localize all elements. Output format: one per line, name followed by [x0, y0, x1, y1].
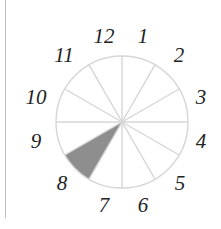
spoke-line — [122, 89, 179, 122]
clock-dial: 12 1 2 3 4 5 6 7 8 9 10 11 — [0, 0, 221, 229]
spoke-line — [122, 122, 155, 179]
label-5: 5 — [175, 171, 186, 195]
label-11: 11 — [54, 43, 73, 67]
spoke-line — [65, 89, 122, 122]
label-8: 8 — [57, 171, 68, 195]
spoke-line — [122, 65, 155, 122]
label-6: 6 — [138, 193, 149, 217]
label-12: 12 — [94, 24, 116, 48]
label-7: 7 — [99, 193, 111, 217]
label-4: 4 — [196, 129, 207, 153]
label-2: 2 — [174, 43, 185, 67]
label-9: 9 — [31, 129, 42, 153]
spoke-line — [89, 65, 122, 122]
spoke-line — [122, 122, 179, 155]
label-3: 3 — [195, 85, 207, 109]
label-10: 10 — [26, 85, 48, 109]
label-1: 1 — [138, 24, 149, 48]
